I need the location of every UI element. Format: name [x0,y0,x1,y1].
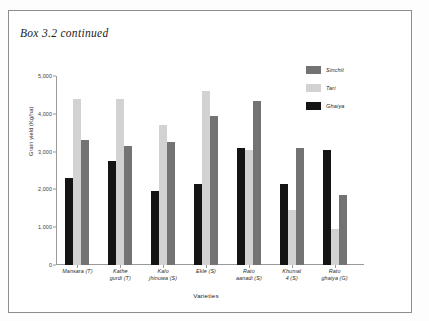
x-axis-category-label-line: gurdi (T) [99,275,142,282]
x-axis-category-label-line: Rato [313,268,356,275]
bar-tari[interactable] [73,99,81,265]
bar-ghaiya[interactable] [108,161,116,265]
y-axis-tick-label: 0 [30,262,52,268]
legend-label-sinchit: Sinchit [326,67,344,73]
x-axis-category-label: Khumal4 (S) [270,268,313,282]
y-axis-title: Grain yield (Kg/ha) [28,36,34,156]
bar-sinchit[interactable] [167,142,175,265]
bar-ghaiya[interactable] [237,148,245,265]
bar-tari[interactable] [331,229,339,265]
x-axis-title: Varieties [56,292,356,299]
chart-legend: SinchitTariGhaiya [306,64,396,118]
bar-tari[interactable] [116,99,124,265]
x-axis-category-label: Kathegurdi (T) [99,268,142,282]
legend-label-ghaiya: Ghaiya [326,103,345,109]
bar-ghaiya[interactable] [194,184,202,265]
y-axis-tick-label: 3,000 [30,149,52,155]
page: Box 3.2 continued Grain yield (Kg/ha) 5,… [0,0,429,321]
x-axis-category-labels: Mansara (T)Kathegurdi (T)Kalojhinuwa (S)… [56,268,356,282]
x-axis-category-label-line: Kathe [99,268,142,275]
x-axis-category-label-line: aanadi (S) [227,275,270,282]
x-axis-category-label-line: jhinuwa (S) [142,275,185,282]
bar-group [227,76,270,265]
y-axis-tick-label: 4,000 [30,111,52,117]
legend-item-ghaiya[interactable]: Ghaiya [306,100,396,112]
bar-tari[interactable] [288,210,296,265]
bar-group [56,76,99,265]
bar-ghaiya[interactable] [151,191,159,265]
bar-ghaiya[interactable] [280,184,288,265]
x-axis-category-label-line: Ekle (S) [185,268,228,275]
bar-sinchit[interactable] [124,146,132,265]
x-axis-category-label-line: Mansara (T) [56,268,99,275]
bar-sinchit[interactable] [81,140,89,265]
x-axis-category-label: Kalojhinuwa (S) [142,268,185,282]
legend-label-tari: Tari [326,85,336,91]
legend-swatch-sinchit [306,66,321,74]
bar-group [99,76,142,265]
bar-group [185,76,228,265]
bar-sinchit[interactable] [339,195,347,265]
y-axis-tick-label: 2,000 [30,186,52,192]
bar-tari[interactable] [159,125,167,265]
x-axis-category-label: Mansara (T) [56,268,99,282]
bar-group [142,76,185,265]
bar-ghaiya[interactable] [65,178,73,265]
bar-tari[interactable] [202,91,210,265]
legend-item-tari[interactable]: Tari [306,82,396,94]
x-axis-category-label-line: ghaiya (G) [313,275,356,282]
x-axis-category-label-line: 4 (S) [270,275,313,282]
bar-tari[interactable] [245,150,253,265]
legend-swatch-tari [306,84,321,92]
legend-swatch-ghaiya [306,102,321,110]
y-axis-tick-label: 1,000 [30,224,52,230]
x-axis-category-label: Ekle (S) [185,268,228,282]
x-axis-category-label-line: Khumal [270,268,313,275]
grain-yield-bar-chart: Grain yield (Kg/ha) 5,0004,0003,0002,000… [30,64,400,309]
x-axis-category-label: Ratoaanadi (S) [227,268,270,282]
bar-sinchit[interactable] [210,116,218,265]
bar-sinchit[interactable] [253,101,261,265]
x-axis-category-label: Ratoghaiya (G) [313,268,356,282]
y-axis-tick-label: 5,000 [30,73,52,79]
bar-ghaiya[interactable] [323,150,331,265]
x-axis-category-label-line: Kalo [142,268,185,275]
bar-sinchit[interactable] [296,148,304,265]
legend-item-sinchit[interactable]: Sinchit [306,64,396,76]
x-axis-category-label-line: Rato [227,268,270,275]
